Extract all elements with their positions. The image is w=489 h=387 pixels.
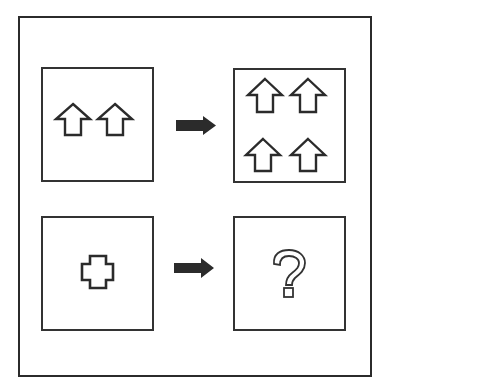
question-mark-icon — [0, 0, 489, 387]
